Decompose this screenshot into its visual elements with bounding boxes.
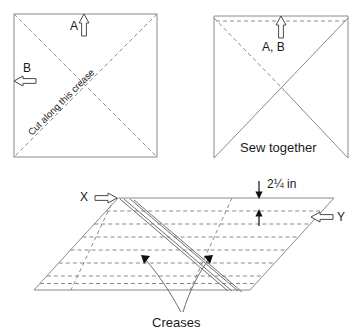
creases-label: Creases xyxy=(152,315,201,330)
cut-crease-instruction: Cut along this crease xyxy=(26,67,97,138)
instruction-diagram: A B Cut along this crease xyxy=(0,0,361,333)
dimension-arrowhead-up xyxy=(255,209,262,217)
panel-cut-square: A B Cut along this crease xyxy=(14,14,157,157)
crease-column-1 xyxy=(71,205,111,290)
creases-leader-right xyxy=(183,259,209,312)
sew-square-label-ab: A, B xyxy=(262,40,285,54)
parallelogram-label-x: X xyxy=(80,190,88,204)
arrow-ab-up-icon xyxy=(276,16,286,38)
cut-square-label-b: B xyxy=(23,61,31,75)
arrow-a-up-icon xyxy=(79,14,89,36)
fold-line-2 xyxy=(124,199,232,291)
panel-sew-square: A, B Sew together xyxy=(214,16,348,158)
fold-line-3 xyxy=(130,199,238,291)
parallelogram-label-y: Y xyxy=(337,210,345,224)
arrow-x-right-icon xyxy=(95,193,117,203)
sew-square-instruction: Sew together xyxy=(240,140,317,155)
parallelogram-outline xyxy=(34,198,334,290)
fold-line-4 xyxy=(134,200,242,292)
dimension-marker xyxy=(255,181,262,226)
figure-root: A B Cut along this crease xyxy=(0,0,361,333)
fold-line-1 xyxy=(120,199,228,291)
dimension-label: 2¼ in xyxy=(267,177,296,191)
arrow-y-left-icon xyxy=(311,212,333,222)
panel-creases-parallelogram: X Y 2¼ in Creases xyxy=(34,177,345,330)
creases-leader-left xyxy=(145,259,181,312)
arrow-b-left-icon xyxy=(14,76,36,86)
cut-square-label-a: A xyxy=(70,19,78,33)
